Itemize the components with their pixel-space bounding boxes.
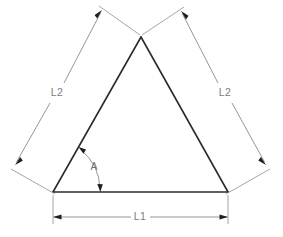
base-angle-label: A bbox=[90, 160, 97, 172]
triangle-dimension-drawing: L2 L2 L1 bbox=[0, 0, 283, 237]
right-dim-extension-upper bbox=[142, 7, 184, 35]
left-side-length-label: L2 bbox=[51, 86, 63, 98]
base-angle-dimension: A bbox=[79, 147, 103, 192]
base-dim-arrow-left bbox=[53, 215, 62, 220]
left-dim-line-upper bbox=[64, 13, 101, 83]
left-dim-extension-lower bbox=[11, 169, 55, 194]
right-dim-extension-lower bbox=[226, 169, 270, 194]
triangle-outline bbox=[53, 37, 228, 192]
right-side-length-label: L2 bbox=[219, 86, 231, 98]
angle-arc-arrow-lower bbox=[97, 184, 103, 192]
base-dimension: L1 bbox=[53, 195, 228, 224]
triangle-right-edge bbox=[141, 37, 228, 192]
right-dim-line-lower bbox=[232, 103, 265, 162]
base-dim-arrow-right bbox=[220, 215, 229, 220]
right-dim-line-upper bbox=[183, 14, 219, 83]
base-length-label: L1 bbox=[134, 210, 146, 222]
left-side-dimension: L2 bbox=[11, 6, 140, 194]
right-side-dimension: L2 bbox=[142, 7, 270, 194]
left-dim-extension-upper bbox=[99, 6, 140, 35]
diagram-canvas: L2 L2 L1 bbox=[0, 0, 283, 237]
left-dim-line-lower bbox=[17, 103, 51, 162]
